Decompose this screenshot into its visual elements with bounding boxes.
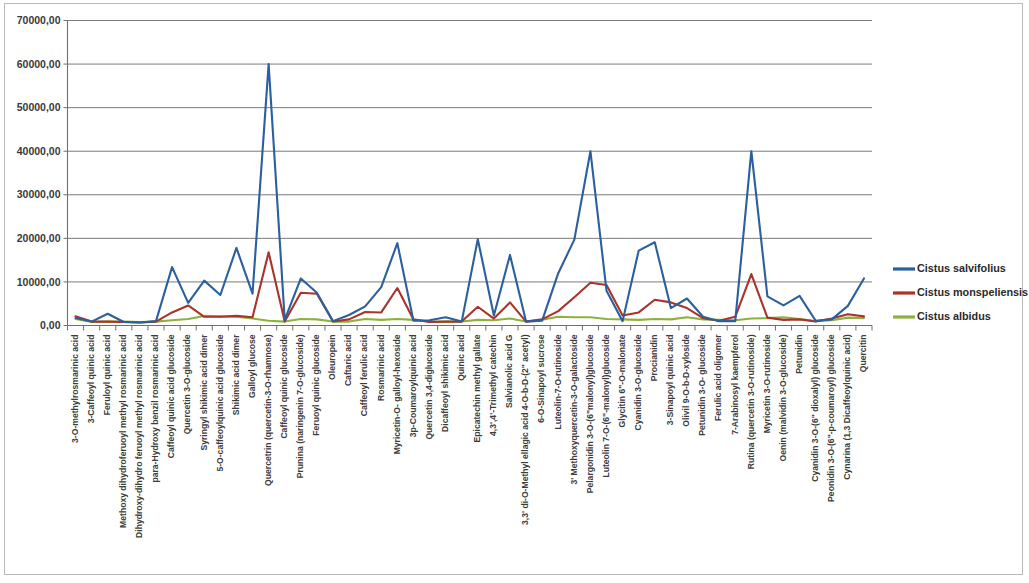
x-axis-tick-label: 4,3',4'-Trimethyl catechin <box>488 335 498 437</box>
x-axis-tick-label: Oenin (malvidin 3-O-glucoside) <box>778 334 788 461</box>
x-axis-tick-label: Caffeoyl quinic glucoside <box>279 334 289 438</box>
x-axis-tick-label: Quercetin 3-O-glucoside <box>182 334 192 434</box>
y-axis-tick-label: 10000,00 <box>17 276 61 288</box>
y-axis-tick-label: 60000,00 <box>17 58 61 70</box>
x-axis-tick-label: Cyanidin 3-O-glucoside <box>633 334 643 430</box>
x-axis-tick-label: Olivil 9-O-b-D-xyloside <box>681 334 691 426</box>
x-axis-tick-label: Epicatechin methyl gallate <box>472 334 482 442</box>
x-axis-tick-label: Luteolin 7-O-(6"-malonyl)glucoside <box>601 334 611 477</box>
x-axis-tick-label: Glycitin 6"-O-malonate <box>617 334 627 427</box>
y-axis-tick-label: 20000,00 <box>17 232 61 244</box>
line-chart: 0,0010000,0020000,0030000,0040000,005000… <box>0 0 1029 583</box>
x-axis-tick-label: Quercetrin (quercetin-3-O-rhamnose) <box>263 334 273 486</box>
chart-canvas: 0,0010000,0020000,0030000,0040000,005000… <box>0 0 1029 583</box>
x-axis-tick-label: Quinic acid <box>456 335 466 381</box>
chart-page: 0,0010000,0020000,0030000,0040000,005000… <box>0 0 1029 583</box>
x-axis-tick-label: Salvianolic acid G <box>504 334 514 408</box>
y-axis-tick-label: 50000,00 <box>17 101 61 113</box>
x-axis-tick-label: Dicaffeoyl shikimic acid <box>440 335 450 432</box>
x-axis-tick-label: 7-Arabinosyl kaempferol <box>730 335 740 435</box>
x-axis-tick-label: Quercetin 3,4-diglucoside <box>424 334 434 439</box>
x-axis-tick-label: Caftaric acid <box>343 335 353 387</box>
x-axis-tick-label: Galloyl glucose <box>247 334 257 398</box>
x-axis-tick-label: Caffeoyl ferulic acid <box>359 335 369 417</box>
legend-label: Cistus monspeliensis <box>917 286 1028 298</box>
x-axis-tick-label: Dihydroxy-dihydro feruoyl methyl rosmari… <box>134 335 144 538</box>
x-axis-tick-label: Luteolin-7-O-rutinoside <box>553 334 563 429</box>
x-axis-tick-label: 3-O-methylrosmarinic acid <box>70 335 80 443</box>
x-axis-tick-label: Methoxy dihydroferuoyl methyl rosmarinic… <box>118 335 128 528</box>
x-axis-tick-label: Rosmarinic acid <box>376 335 386 401</box>
x-axis-tick-label: 6-O-Sinapoyl sucrose <box>536 334 546 423</box>
x-axis-tick-label: Procianidin <box>649 335 659 382</box>
x-axis-tick-label: Oleuropein <box>327 335 337 380</box>
x-axis-tick-label: Cyanidin 3-O-(6" dioxalyl) glucoside <box>810 334 820 482</box>
x-axis-tick-label: 5-O-caffeoylquinic acid glucoside <box>215 334 225 471</box>
x-axis-tick-label: Ferulic acid oligomer <box>713 334 723 421</box>
x-axis-tick-label: Petunidin 3-O- glucoside <box>697 334 707 435</box>
x-axis-tick-label: 3' Methoxyquercetin-3-O-galactoside <box>569 334 579 484</box>
x-axis-tick-label: Myricetin 3-O-rutinoside <box>762 334 772 433</box>
y-axis-tick-label: 40000,00 <box>17 145 61 157</box>
y-axis-tick-label: 30000,00 <box>17 188 61 200</box>
x-axis-tick-label: Pelargonidin 3-O-(6"malonyl)glucoside <box>585 334 595 493</box>
x-axis-tick-label: Caffeoyl quinic acid glucoside <box>166 334 176 458</box>
x-axis-tick-label: 3p-Coumaroylquinic acid <box>408 335 418 438</box>
series-line-cistus-albidus <box>76 316 864 322</box>
x-axis-tick-label: Feruoyl quinic glucoside <box>311 334 321 435</box>
x-axis-tick-label: 3,3' di-O-Methyl ellagic acid 4-O-b-D-(2… <box>520 334 530 525</box>
x-axis-tick-label: Cynarina (1,3 Dicaffeoylquinic acid) <box>842 334 852 479</box>
legend-label: Cistus albidus <box>917 310 991 322</box>
legend-label: Cistus salvifolius <box>917 262 1006 274</box>
series-line-cistus-monspeliensis <box>76 252 864 322</box>
x-axis-tick-label: Rutina (quercetin 3-O-rutinoside) <box>746 334 756 469</box>
y-axis-tick-label: 70000,00 <box>17 14 61 26</box>
x-axis-tick-label: 3-Caffeoyl quinic acid <box>86 335 96 424</box>
x-axis-tick-label: Syringyl shikimic acid dimer <box>199 334 209 451</box>
series-line-cistus-salvifolius <box>76 64 864 322</box>
x-axis-tick-label: Prunina (naringenin 7-O-glucoside) <box>295 334 305 478</box>
x-axis-tick-label: Myricetin-O- galloyl-hexoside <box>392 334 402 454</box>
x-axis-tick-label: Peonidin 3-O-(6"-p-coumaroyl) glucoside <box>826 334 836 502</box>
x-axis-tick-label: para-Hydroxy benzil rosmarinic acid <box>150 335 160 483</box>
x-axis-tick-label: 3-Sinapoyl quinic acid <box>665 335 675 426</box>
x-axis-tick-label: Quercitin <box>858 335 868 373</box>
y-axis-tick-label: 0,00 <box>40 319 61 331</box>
x-axis-tick-label: Petunidin <box>794 335 804 374</box>
x-axis-tick-label: Feruloyl quinic acid <box>102 335 112 416</box>
x-axis-tick-label: Shikimic acid dimer <box>231 334 241 415</box>
